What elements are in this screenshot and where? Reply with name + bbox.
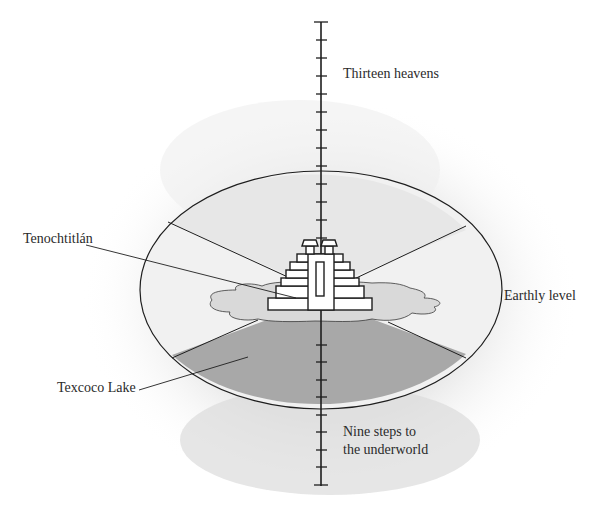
aztec-cosmos-diagram: Thirteen heavens Tenochtitlán Earthly le… (0, 0, 604, 512)
diagram-canvas (0, 0, 604, 512)
label-earthly-level: Earthly level (504, 286, 576, 305)
label-nine-steps-line1: Nine steps to (343, 422, 416, 441)
label-thirteen-heavens: Thirteen heavens (343, 64, 439, 83)
label-texcoco-lake: Texcoco Lake (57, 378, 136, 397)
label-nine-steps-line2: the underworld (343, 440, 428, 459)
label-tenochtitlan: Tenochtitlán (23, 229, 93, 248)
